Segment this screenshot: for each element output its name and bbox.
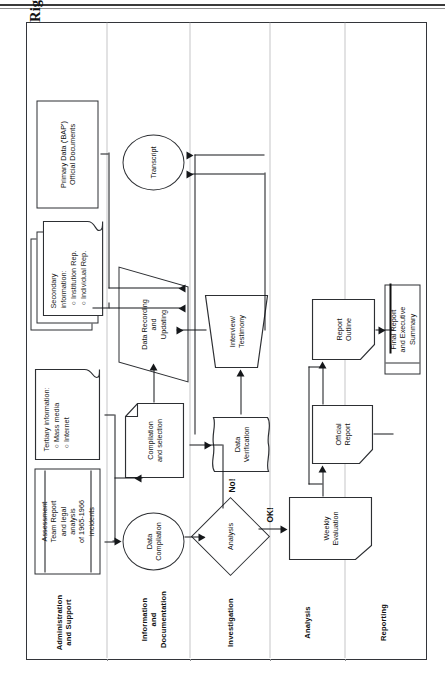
conn-officialreport-down <box>373 433 393 434</box>
conn-weekly-bus-h <box>308 366 309 484</box>
node-data-recording[interactable]: Data Recording and Updating <box>118 276 188 372</box>
edge-label-no: No! <box>226 478 236 492</box>
page-top-rule <box>0 4 445 6</box>
node-transcript-label: Transcript <box>148 146 157 178</box>
conn-primary-up <box>100 153 108 154</box>
node-weekly-evaluation-label: Weekly Evaluation <box>321 511 340 545</box>
assessment-report-bottom-rule <box>90 470 91 572</box>
conn-officialreport-right <box>194 154 195 434</box>
node-tertiary-information[interactable]: Tertiary information: ○ Mass media ○ Int… <box>34 368 100 460</box>
node-data-verification-label: Data Verification <box>232 426 251 462</box>
node-compilation-selection[interactable]: Compilation and selection <box>124 402 184 478</box>
data-recording-label-wrap: Data Recording and Updating <box>118 276 188 372</box>
node-assessment-report-label: Assessment Team Report and legal analysi… <box>39 500 96 543</box>
lane-label-reporting: Reporting <box>378 590 387 654</box>
conn-primary-bus <box>108 152 109 288</box>
arrow-outline-to-final <box>378 326 385 334</box>
tertiary-information-items: ○ Mass media ○ Internet <box>51 368 71 451</box>
node-data-compilation[interactable]: Data Compilation <box>122 512 184 570</box>
conn-compilation-to-recording <box>153 368 154 402</box>
lane-label-investigation: Investigation <box>225 590 234 654</box>
node-interview-testimony[interactable]: Interview/ Testimony <box>204 294 268 368</box>
tertiary-information-title: Tertiary information: <box>41 368 51 451</box>
arrow-interview-into-transcript <box>186 170 193 178</box>
lane-divider-2 <box>189 22 190 660</box>
node-analysis-decision-label: Analysis <box>225 522 234 549</box>
analysis-decision-label-wrap: Analysis <box>202 508 258 564</box>
node-interview-testimony-label: Interview/ Testimony <box>227 315 246 348</box>
lane-label-administration: Administration and Support <box>54 590 73 654</box>
node-data-recording-label: Data Recording and Updating <box>139 299 167 350</box>
compilation-selection-label-wrap: Compilation and selection <box>124 402 184 478</box>
official-report-label-wrap: Official Report <box>311 404 373 464</box>
arrow-verification-to-interview <box>236 369 244 376</box>
lane-divider-1 <box>106 22 107 660</box>
data-verification-label-wrap: Data Verification <box>210 414 272 474</box>
weekly-evaluation-label-wrap: Weekly Evaluation <box>288 496 372 560</box>
conn-verification-to-interview <box>240 374 241 414</box>
arrow-into-data-compilation <box>114 537 121 545</box>
secondary-information-items: ○ Institution Rep. ○ Individual Rep. <box>68 250 88 308</box>
arrow-officialreport-into-transcript <box>186 151 193 159</box>
edge-label-ok: OK! <box>264 507 274 522</box>
conn-interview-to-transcript <box>188 173 264 174</box>
assessment-report-top-rule <box>44 470 45 572</box>
conn-tertiary-up <box>104 414 114 415</box>
lane-label-information: Information and Documentation <box>139 584 167 654</box>
lane-label-analysis: Analysis <box>302 590 311 654</box>
conn-official-to-outline <box>322 366 323 404</box>
node-official-report[interactable]: Official Report <box>311 404 373 464</box>
node-primary-data-label: Primary Data ('BAP') Official Documents <box>58 121 77 188</box>
node-report-outline[interactable]: Report Outline <box>311 298 375 360</box>
diagram-frame: Administration and Support Information a… <box>26 22 427 660</box>
flowchart-canvas: Administration and Support Information a… <box>26 22 427 660</box>
secondary-information-title: Secondary information: <box>48 250 68 308</box>
page-top-rule-secondary <box>0 8 445 9</box>
conn-secondary-up <box>92 307 108 308</box>
node-report-outline-label: Report Outline <box>334 317 353 340</box>
node-official-report-label: Official Report <box>333 423 352 445</box>
arrow-analysis-to-weekly <box>280 525 287 533</box>
arrow-weekly-to-official <box>318 465 326 472</box>
interview-testimony-label-wrap: Interview/ Testimony <box>204 294 268 368</box>
conn-analysis-ok <box>258 528 282 529</box>
node-primary-data[interactable]: Primary Data ('BAP') Official Documents <box>36 100 98 208</box>
node-analysis-decision[interactable]: Analysis <box>202 508 258 564</box>
conn-weekly-bus-up <box>308 483 322 484</box>
lane-divider-3 <box>269 22 270 660</box>
node-weekly-evaluation[interactable]: Weekly Evaluation <box>288 496 372 560</box>
conn-officialreport-to-transcript <box>194 154 264 155</box>
report-outline-label-wrap: Report Outline <box>311 298 375 360</box>
node-data-verification[interactable]: Data Verification <box>210 414 272 474</box>
node-compilation-selection-label: Compilation and selection <box>145 419 164 462</box>
node-secondary-information[interactable]: Secondary information: ○ Institution Rep… <box>30 222 104 330</box>
node-transcript[interactable]: Transcript <box>122 134 184 190</box>
node-data-compilation-label: Data Compilation <box>144 522 163 561</box>
